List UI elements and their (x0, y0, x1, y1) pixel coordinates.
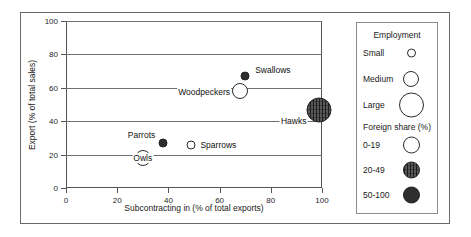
legend-size-marker (399, 93, 424, 118)
bubble-swallows[interactable] (241, 72, 250, 81)
legend-size-label: Small (357, 48, 384, 58)
y-tick-label: 40 (49, 117, 58, 126)
x-tick (66, 188, 67, 193)
bubble-chart-figure: Export (% of total sales) 020406080100 0… (0, 0, 471, 237)
x-tick (322, 188, 323, 193)
x-axis-title: Subcontracting in (% of total exports) (66, 203, 322, 213)
gridline (66, 21, 322, 22)
y-tick-label: 0 (54, 184, 58, 193)
y-tick (61, 155, 66, 156)
y-tick (61, 54, 66, 55)
y-tick-label: 100 (45, 17, 58, 26)
legend-size-row: Medium (357, 66, 437, 92)
y-tick (61, 88, 66, 89)
legend-share-label: 20-49 (357, 165, 385, 175)
point-label-owls: Owls (132, 153, 153, 163)
legend-share-row: 50-100 (357, 182, 437, 207)
y-axis-title-text: Export (% of total sales) (27, 59, 37, 149)
bubble-sparrows[interactable] (187, 140, 196, 149)
point-label-hawks: Hawks (280, 116, 308, 126)
point-label-swallows: Swallows (254, 65, 291, 75)
x-tick (271, 188, 272, 193)
y-tick (61, 21, 66, 22)
bubble-hawks[interactable] (307, 97, 332, 122)
plot-frame (66, 21, 322, 188)
bubble-woodpeckers[interactable] (232, 83, 248, 99)
plot-area: 020406080100 020406080100 SwallowsWoodpe… (66, 21, 322, 188)
x-tick (220, 188, 221, 193)
legend-share-label: 0-19 (357, 140, 380, 150)
legend-share-marker (403, 136, 420, 153)
gridline (66, 155, 322, 156)
y-tick-label: 20 (49, 150, 58, 159)
y-tick-label: 80 (49, 50, 58, 59)
gridline (66, 54, 322, 55)
legend-employment-group: SmallMediumLarge (357, 40, 437, 118)
legend-share-marker (403, 186, 420, 203)
legend-share-row: 0-19 (357, 132, 437, 157)
legend-employment-title: Employment (357, 30, 437, 40)
legend-size-label: Large (357, 100, 385, 110)
legend-size-row: Small (357, 40, 437, 66)
legend-share-marker (403, 161, 420, 178)
bubble-parrots[interactable] (159, 138, 168, 147)
y-tick (61, 121, 66, 122)
legend-size-marker (403, 71, 419, 87)
legend-foreign-share-group: 0-1920-4950-100 (357, 132, 437, 207)
chart-legend: Employment SmallMediumLarge Foreign shar… (356, 22, 438, 214)
x-tick (168, 188, 169, 193)
point-label-sparrows: Sparrows (199, 140, 237, 150)
legend-size-marker (407, 49, 416, 58)
legend-size-label: Medium (357, 74, 393, 84)
legend-foreign-share-title: Foreign share (%) (357, 122, 437, 132)
legend-share-label: 50-100 (357, 190, 389, 200)
y-axis-title: Export (% of total sales) (26, 21, 38, 188)
legend-size-row: Large (357, 92, 437, 118)
point-label-parrots: Parrots (127, 130, 156, 140)
legend-share-row: 20-49 (357, 157, 437, 182)
point-label-woodpeckers: Woodpeckers (177, 87, 231, 97)
y-tick-label: 60 (49, 83, 58, 92)
x-tick (117, 188, 118, 193)
